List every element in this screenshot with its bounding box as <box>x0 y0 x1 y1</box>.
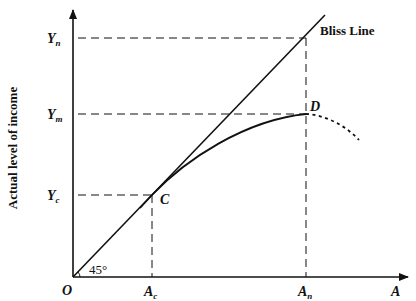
tick-label-an: An <box>297 284 312 301</box>
tick-label-yc: Yc <box>47 188 60 205</box>
point-c-label: C <box>160 192 170 207</box>
origin-label: O <box>62 283 72 298</box>
bliss-line <box>73 15 325 277</box>
angle-label: 45° <box>89 262 107 277</box>
tick-label-ac: Ac <box>143 284 157 301</box>
tick-label-ym: Ym <box>47 107 63 124</box>
tick-label-yn: Yn <box>47 31 61 48</box>
y-axis-label: Actual level of income <box>5 87 20 210</box>
bliss-line-label: Bliss Line <box>320 23 375 38</box>
declining-curve-dotted <box>306 114 359 140</box>
x-axis-label: A <box>390 284 400 299</box>
point-d-label: D <box>309 99 320 114</box>
bliss-line-diagram: Yn Ym Yc Ac An A O 45° C D Bliss Line Ac… <box>0 0 416 301</box>
